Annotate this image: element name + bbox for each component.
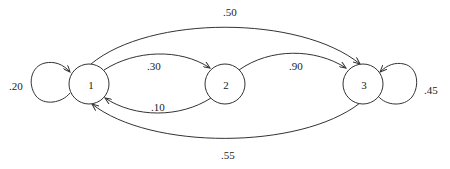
markov-chain-diagram: .20 .30 .10 .50 .90 .45 .55 1 2 3 xyxy=(0,0,450,169)
edge-label-2-3: .90 xyxy=(289,60,303,72)
state-node-2-label: 2 xyxy=(223,79,229,91)
edge-label-2-1: .10 xyxy=(151,101,165,113)
state-node-2: 2 xyxy=(205,64,245,104)
state-node-3: 3 xyxy=(343,64,383,104)
state-node-3-label: 3 xyxy=(361,79,367,91)
edge-label-1-3: .50 xyxy=(223,6,237,18)
edge-label-1-2: .30 xyxy=(147,60,161,72)
edge-label-3-3: .45 xyxy=(424,84,438,96)
edge-label-3-1: .55 xyxy=(221,149,235,161)
diagram-canvas: .20 .30 .10 .50 .90 .45 .55 1 2 3 xyxy=(0,0,450,169)
edge-3-to-3-self-loop xyxy=(378,63,417,104)
state-node-1: 1 xyxy=(69,64,109,104)
edge-1-to-1-self-loop xyxy=(31,62,70,102)
edge-1-to-3 xyxy=(91,27,360,64)
edge-label-1-1: .20 xyxy=(9,80,23,92)
edge-3-to-1 xyxy=(92,103,360,138)
state-node-1-label: 1 xyxy=(88,79,94,91)
